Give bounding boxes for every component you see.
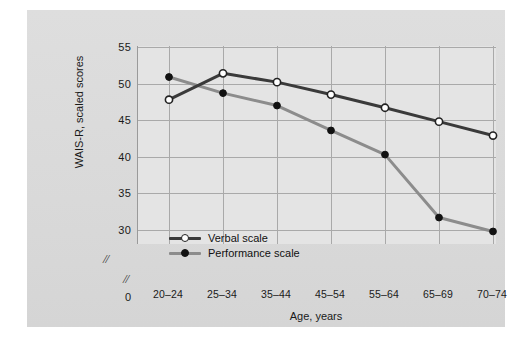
y-tick-label: 30 — [91, 224, 131, 236]
x-tick-label: 65–69 — [423, 288, 453, 300]
y-axis-title: WAIS-R, scaled scores — [73, 32, 85, 192]
data-point-marker — [490, 228, 497, 235]
chart-legend: Verbal scalePerformance scale — [169, 231, 300, 261]
x-tick-label: 25–34 — [207, 288, 237, 300]
screenshot-root: WAIS-R, scaled scores 555045403530 0 // … — [0, 0, 524, 342]
data-point-marker — [436, 214, 443, 221]
data-point-marker — [219, 70, 226, 77]
data-point-marker — [165, 96, 172, 103]
y-axis-break-icon: // — [103, 251, 108, 267]
data-point-marker — [327, 91, 334, 98]
series-line-verbal — [169, 73, 493, 135]
data-point-marker — [489, 132, 496, 139]
data-point-marker — [166, 74, 173, 81]
data-point-marker — [381, 104, 388, 111]
data-point-marker — [328, 127, 335, 134]
legend-label: Performance scale — [208, 247, 300, 259]
y-axis-origin-label: 0 — [87, 291, 131, 303]
y-axis-tick-labels: 555045403530 — [87, 46, 131, 244]
legend-label: Verbal scale — [208, 232, 268, 244]
x-axis-title: Age, years — [137, 310, 495, 322]
legend-item-verbal[interactable]: Verbal scale — [169, 231, 300, 245]
x-tick-label: 35–44 — [261, 288, 291, 300]
figure-card: WAIS-R, scaled scores 555045403530 0 // … — [27, 10, 505, 327]
plot-area: Verbal scalePerformance scale — [137, 46, 496, 244]
legend-marker-icon — [169, 248, 201, 258]
y-tick-label: 45 — [91, 114, 131, 126]
series-line-performance — [169, 77, 493, 231]
x-tick-label: 70–74 — [477, 288, 507, 300]
legend-marker-icon — [169, 233, 201, 243]
x-tick-label: 45–54 — [315, 288, 345, 300]
y-tick-label: 35 — [91, 187, 131, 199]
x-tick-label: 20–24 — [153, 288, 183, 300]
series-lines-and-markers — [138, 46, 496, 244]
data-point-marker — [274, 102, 281, 109]
x-axis-break-icon: // — [123, 271, 128, 287]
x-axis-tick-labels: 20–2425–3435–4445–5455–6465–6970–74 — [137, 288, 495, 304]
y-tick-label: 55 — [91, 41, 131, 53]
data-point-marker — [435, 118, 442, 125]
data-point-marker — [382, 151, 389, 158]
data-point-marker — [220, 90, 227, 97]
y-tick-label: 50 — [91, 78, 131, 90]
legend-item-performance[interactable]: Performance scale — [169, 246, 300, 260]
y-tick-label: 40 — [91, 151, 131, 163]
x-tick-label: 55–64 — [369, 288, 399, 300]
data-point-marker — [273, 79, 280, 86]
